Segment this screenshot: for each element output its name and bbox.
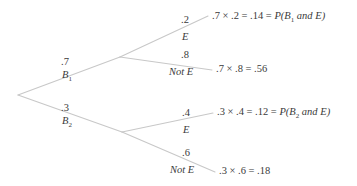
branch-b2-to-not-e xyxy=(122,132,215,172)
label-b1-event-subscript: 1 xyxy=(68,75,72,83)
outcome-and-1: and xyxy=(294,10,315,21)
outcome-close-1: ) xyxy=(322,10,326,21)
outcome-b-sub-1: 1 xyxy=(291,16,295,24)
outcome-p-3: P( xyxy=(279,106,289,117)
label-b1-e-event: E xyxy=(182,32,188,43)
label-b2-e-event: E xyxy=(183,125,189,136)
label-b2-not-e-event: Not E xyxy=(170,165,194,176)
outcome-calc-1: .7 × .2 = .14 = xyxy=(212,10,274,21)
label-b1-probability: .7 xyxy=(61,57,69,68)
label-b2-event: B2 xyxy=(62,116,72,127)
label-b2-event-subscript: 2 xyxy=(68,121,72,129)
outcome-equation-b1-and-not-e: .7 × .8 = .56 xyxy=(216,64,267,75)
branch-b1-to-not-e xyxy=(120,57,212,70)
outcome-b-sub-3: 2 xyxy=(296,112,300,120)
probability-tree-diagram: .7 B1 .3 B2 .2 E .8 Not E .4 E .6 Not E … xyxy=(0,0,357,186)
outcome-equation-b2-and-not-e: .3 × .6 = .18 xyxy=(219,166,270,177)
branch-b2-to-e xyxy=(122,113,213,132)
outcome-equation-b1-and-e: .7 × .2 = .14 = P(B1 and E) xyxy=(212,11,325,22)
tree-branch-lines xyxy=(0,0,357,186)
outcome-calc-3: .3 × .4 = .12 = xyxy=(217,106,279,117)
label-b2-probability: .3 xyxy=(61,103,69,114)
outcome-b-1: B xyxy=(284,10,290,21)
label-b1-e-probability: .2 xyxy=(181,15,189,26)
outcome-equation-b2-and-e: .3 × .4 = .12 = P(B2 and E) xyxy=(217,107,330,118)
label-b1-not-e-probability: .8 xyxy=(181,50,189,61)
outcome-b-3: B xyxy=(289,106,295,117)
outcome-p-1: P( xyxy=(274,10,284,21)
label-b1-event: B1 xyxy=(62,70,72,81)
outcome-close-3: ) xyxy=(327,106,331,117)
label-b1-not-e-event: Not E xyxy=(169,67,193,78)
branch-b1-to-e xyxy=(120,16,208,57)
outcome-and-3: and xyxy=(299,106,320,117)
label-b2-not-e-probability: .6 xyxy=(182,148,190,159)
label-b2-e-probability: .4 xyxy=(182,108,190,119)
